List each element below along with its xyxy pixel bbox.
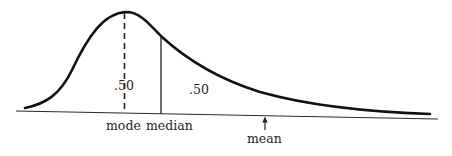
- x-axis-baseline: [16, 111, 438, 119]
- area-label-right: .50: [189, 84, 209, 97]
- mean-label: mean: [247, 133, 282, 146]
- mode-label: mode: [106, 120, 141, 133]
- skewed-distribution-diagram: [0, 0, 452, 156]
- area-label-left: .50: [114, 80, 134, 93]
- distribution-curve: [25, 12, 430, 114]
- mean-arrow-icon: [262, 117, 267, 131]
- median-label: median: [146, 120, 193, 133]
